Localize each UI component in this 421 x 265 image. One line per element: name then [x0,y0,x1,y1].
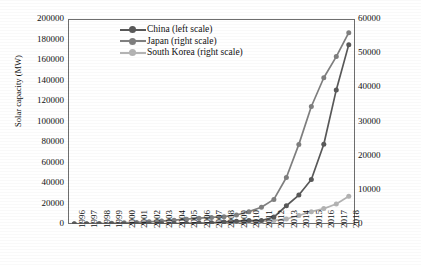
chart-legend: China (left scale)Japan (right scale)Sou… [120,24,243,59]
data-point [284,175,289,180]
data-point [259,205,264,210]
x-tick-label: 2010 [252,210,261,228]
data-point [72,222,77,225]
y-tick-left: 120000 [16,96,64,105]
x-tick-label: 2009 [240,210,249,228]
y-tick-right: 60000 [358,14,408,23]
solar-capacity-line-chart: Solar capacity (MW) 02000040000600008000… [0,0,421,265]
data-point [334,87,339,92]
y-tick-left: 100000 [16,117,64,126]
legend-marker-icon [120,36,146,47]
y-tick-right: 30000 [358,117,408,126]
x-tick-label: 1997 [90,210,99,228]
y-tick-left: 0 [16,219,64,228]
data-point [346,194,351,199]
y-tick-left: 60000 [16,158,64,167]
x-tick-label: 2014 [302,210,311,228]
legend-label: Japan (right scale) [147,36,217,48]
data-point [346,30,351,35]
y-tick-left: 200000 [16,14,64,23]
y-tick-left: 140000 [16,76,64,85]
legend-item[interactable]: South Korea (right scale) [120,47,243,59]
x-tick-label: 1998 [103,210,112,228]
x-tick-label: 2016 [327,210,336,228]
data-point [271,197,276,202]
data-point [284,203,289,208]
data-point [334,202,339,207]
y-tick-right: 0 [358,219,408,228]
data-point [309,177,314,182]
legend-marker-icon [120,47,146,58]
x-tick-label: 2006 [203,210,212,228]
data-point [321,75,326,80]
x-tick-label: 2013 [290,210,299,228]
x-tick-label: 2015 [315,210,324,228]
y-tick-left: 80000 [16,137,64,146]
data-point [334,54,339,59]
x-tick-label: 2005 [190,210,199,228]
legend-item[interactable]: Japan (right scale) [120,36,243,48]
series-2 [72,30,352,224]
y-tick-right: 50000 [358,48,408,57]
legend-item[interactable]: China (left scale) [120,24,243,36]
x-tick-label: 2017 [340,210,349,228]
y-axis-right-ticks: 0100002000030000400005000060000 [358,0,410,265]
x-tick-label: 2001 [140,210,149,228]
y-tick-right: 20000 [358,151,408,160]
x-tick-label: 2003 [165,210,174,228]
series-1 [72,42,352,224]
y-tick-left: 20000 [16,199,64,208]
x-tick-label: 2008 [227,210,236,228]
legend-label: China (left scale) [147,24,212,36]
x-tick-label: 2000 [128,210,137,228]
data-point [346,42,351,47]
x-tick-label: 2018 [352,210,361,228]
y-tick-right: 10000 [358,185,408,194]
y-tick-right: 40000 [358,82,408,91]
x-tick-label: 2011 [265,210,274,228]
data-point [321,142,326,147]
y-tick-left: 160000 [16,55,64,64]
legend-marker-icon [120,24,146,35]
x-tick-label: 2004 [178,210,187,228]
y-tick-left: 40000 [16,178,64,187]
x-tick-label: 1999 [115,210,124,228]
legend-label: South Korea (right scale) [147,47,243,59]
series-line [74,33,349,224]
data-point [296,193,301,198]
y-axis-left-ticks: 0200004000060000800001000001200001400001… [14,0,64,265]
series-line [74,45,349,224]
x-tick-label: 1996 [78,210,87,228]
x-tick-label: 2007 [215,210,224,228]
x-tick-label: 2012 [277,210,286,228]
data-point [309,104,314,109]
data-point [296,142,301,147]
y-tick-left: 180000 [16,35,64,44]
x-tick-label: 2002 [153,210,162,228]
